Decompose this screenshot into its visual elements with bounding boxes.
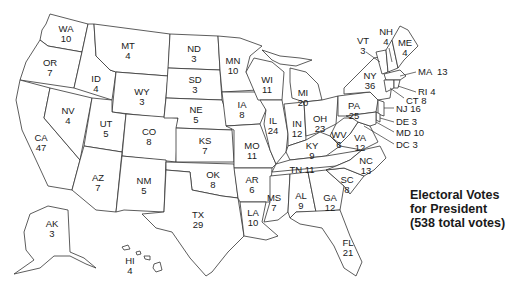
label-va: VA12 <box>354 133 366 153</box>
label-ia: IA8 <box>238 100 247 120</box>
label-de: DE 3 <box>396 117 417 127</box>
state-ri <box>394 80 400 88</box>
label-mo: MO11 <box>244 141 259 161</box>
label-al: AL9 <box>295 191 307 211</box>
label-md: MD 10 <box>396 128 424 138</box>
leader-de <box>380 118 394 122</box>
label-ms: MS7 <box>267 193 281 213</box>
label-ky: KY9 <box>306 141 319 161</box>
label-tn: TN 11 <box>289 165 314 175</box>
label-sd: SD3 <box>188 75 201 95</box>
label-ok: OK8 <box>206 170 220 190</box>
label-ut: UT5 <box>100 119 113 139</box>
label-ny: NY36 <box>363 71 376 91</box>
label-nc: NC13 <box>359 156 373 176</box>
label-id: ID4 <box>91 74 101 94</box>
state-hi-3 <box>144 256 150 260</box>
label-ne: NE5 <box>189 105 202 125</box>
label-ak: AK3 <box>46 219 59 239</box>
label-co: CO8 <box>142 127 156 147</box>
label-sc: SC8 <box>340 175 353 195</box>
map-title-line2: for President <box>410 202 505 216</box>
label-wi: WI11 <box>261 75 273 95</box>
label-dc: DC 3 <box>396 140 418 150</box>
label-wv: WV6 <box>331 130 346 150</box>
label-or: OR7 <box>43 58 57 78</box>
label-la: LA10 <box>247 208 259 228</box>
label-il: IL24 <box>268 116 279 136</box>
label-ar: AR6 <box>245 175 258 195</box>
label-mt: MT4 <box>121 41 135 61</box>
label-vt: VT3 <box>357 36 369 56</box>
state-hi-2 <box>136 251 141 255</box>
label-tx: TX29 <box>192 210 204 230</box>
label-hi: HI4 <box>125 256 135 276</box>
label-nj: NJ 16 <box>396 104 421 114</box>
label-wy: WY3 <box>134 87 149 107</box>
label-ga: GA12 <box>323 193 337 213</box>
state-de <box>376 112 380 122</box>
map-title-line3: (538 total votes) <box>410 216 505 230</box>
label-nv: NV4 <box>61 106 74 126</box>
state-hi-4 <box>153 262 162 272</box>
leader-md <box>376 122 394 132</box>
label-me: ME4 <box>398 38 412 58</box>
label-mi: MI20 <box>298 88 309 108</box>
state-ak <box>14 206 96 274</box>
leader-ri <box>398 86 416 92</box>
label-nm: NM5 <box>137 176 152 196</box>
label-in: IN12 <box>292 119 303 139</box>
label-az: AZ7 <box>92 173 104 193</box>
label-ma: MA 13 <box>418 67 448 77</box>
label-ks: KS7 <box>199 136 212 156</box>
label-oh: OH23 <box>313 114 327 134</box>
label-mn: MN10 <box>226 56 241 76</box>
map-title-line1: Electoral Votes <box>410 188 505 202</box>
leader-ct <box>390 88 404 98</box>
map-title: Electoral Votes for President (538 total… <box>410 188 505 230</box>
label-fl: FL21 <box>342 238 353 258</box>
label-ca: CA47 <box>34 133 47 153</box>
label-nh: NH4 <box>379 27 393 47</box>
label-wa: WA10 <box>59 24 74 44</box>
state-hi-1 <box>122 245 130 250</box>
label-pa: PA25 <box>348 101 360 121</box>
label-nd: ND3 <box>187 44 201 64</box>
